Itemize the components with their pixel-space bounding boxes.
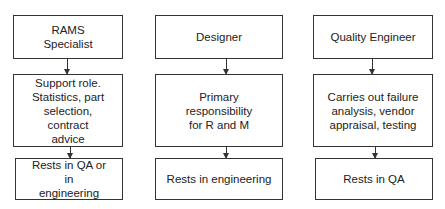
arrow-down-icon (67, 59, 68, 74)
description-line: Support role. (20, 76, 116, 90)
description-line: Statistics, part (20, 90, 116, 104)
description-line: analysis, vendor (322, 104, 425, 118)
arrow-down-icon (226, 147, 227, 158)
description-line: appraisal, testing (322, 118, 425, 132)
description-line: for R and M (162, 118, 276, 132)
location-line: Rests in QA or in (22, 158, 116, 186)
arrow-down-icon (372, 59, 373, 74)
location-line: Rests in engineering (161, 172, 278, 186)
location-line: engineering (22, 186, 116, 200)
role-line: Quality Engineer (324, 30, 421, 44)
role-line: Designer (190, 30, 248, 44)
role-line: Specialist (37, 37, 98, 51)
arrow-down-icon (375, 147, 376, 158)
designer-box: Designer (155, 15, 283, 59)
rams-specialist-box: RAMS Specialist (13, 15, 123, 59)
location-line: Rests in QA (337, 172, 410, 186)
rams-specialist-location-box: Rests in QA or in engineering (15, 158, 123, 200)
designer-description-box: Primary responsibility for R and M (155, 74, 283, 147)
rams-specialist-description-box: Support role. Statistics, part selection… (13, 74, 123, 147)
arrow-down-icon (70, 147, 71, 158)
quality-engineer-description-box: Carries out failure analysis, vendor app… (313, 74, 433, 147)
description-line: Carries out failure (322, 90, 425, 104)
designer-location-box: Rests in engineering (155, 158, 283, 200)
description-line: Primary responsibility (162, 90, 276, 118)
quality-engineer-location-box: Rests in QA (315, 158, 433, 200)
description-line: advice (20, 132, 116, 146)
role-line: RAMS (37, 23, 98, 37)
arrow-down-icon (226, 59, 227, 74)
description-line: selection, contract (20, 104, 116, 132)
quality-engineer-box: Quality Engineer (313, 15, 433, 59)
